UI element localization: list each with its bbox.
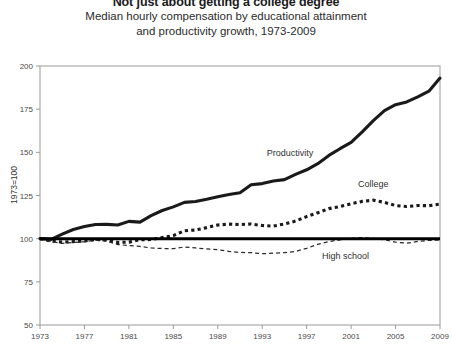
y-tick-label: 150 [20,148,34,157]
line-chart: 5075100125150175200 19731977198119851989… [0,52,452,347]
y-tick-label: 125 [20,192,34,201]
plot-frame [40,66,440,325]
chart-page: Not just about getting a college degree … [0,0,452,347]
x-tick-label: 1977 [76,332,94,341]
y-tick-label: 200 [20,62,34,71]
x-tick-label: 2001 [342,332,360,341]
title-clip-region: Not just about getting a college degree [0,0,452,9]
series-group [40,78,440,254]
series-annotations: ProductivityCollegeHigh school [267,148,389,262]
y-axis-ticks: 5075100125150175200 [20,62,40,330]
x-axis-ticks: 1973197719811985198919931997200120052009 [31,325,449,341]
y-tick-label: 75 [24,278,33,287]
subtitle-line-2: and productivity growth, 1973-2009 [0,24,452,39]
annotation-high-school: High school [322,251,369,261]
x-tick-label: 1973 [31,332,49,341]
x-tick-label: 1981 [120,332,138,341]
y-tick-label: 50 [24,321,33,330]
x-tick-label: 1997 [298,332,316,341]
x-tick-label: 1989 [209,332,227,341]
series-line-college [40,200,440,242]
x-tick-label: 1993 [253,332,271,341]
subtitle-line-1: Median hourly compensation by educationa… [85,10,366,22]
annotation-productivity: Productivity [267,148,314,158]
series-line-productivity [40,78,440,239]
annotation-college: College [358,179,389,189]
x-tick-label: 1985 [164,332,182,341]
page-title: Not just about getting a college degree [0,0,452,9]
y-tick-label: 175 [20,105,34,114]
y-tick-label: 100 [20,235,34,244]
x-tick-label: 2005 [387,332,405,341]
page-subtitle: Median hourly compensation by educationa… [0,9,452,39]
x-tick-label: 2009 [431,332,449,341]
